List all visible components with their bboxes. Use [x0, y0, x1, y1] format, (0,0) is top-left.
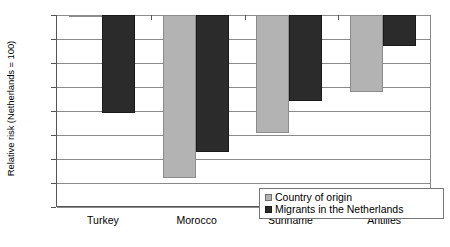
- gridline: [57, 135, 431, 136]
- bar-chart: Relative risk (Netherlands = 100) 100908…: [0, 0, 450, 247]
- bar-antilles-origin: [350, 15, 383, 92]
- plot-inner: [57, 15, 431, 206]
- y-tick-mark: [51, 63, 56, 64]
- bar-antilles-migrant: [383, 15, 416, 46]
- chart-legend: Country of origin Migrants in the Nether…: [259, 188, 444, 219]
- y-tick-mark: [51, 183, 56, 184]
- bar-morocco-migrant: [196, 15, 229, 152]
- x-minor-tick: [151, 15, 152, 20]
- legend-item-origin: Country of origin: [265, 191, 439, 203]
- legend-label-migrant: Migrants in the Netherlands: [275, 203, 403, 215]
- y-axis-title: Relative risk (Netherlands = 100): [5, 3, 16, 215]
- bar-suriname-migrant: [289, 15, 322, 101]
- legend-swatch-migrant-icon: [265, 206, 272, 213]
- plot-area: [56, 15, 431, 207]
- x-minor-tick: [338, 15, 339, 20]
- bar-turkey-origin: [69, 15, 102, 17]
- bar-morocco-origin: [163, 15, 196, 178]
- gridline: [57, 183, 431, 184]
- legend-swatch-origin-icon: [265, 194, 272, 201]
- y-tick-mark: [51, 87, 56, 88]
- y-tick-mark: [51, 135, 56, 136]
- x-label-morocco: Morocco: [150, 214, 244, 226]
- gridline: [57, 159, 431, 160]
- y-tick-mark: [51, 207, 56, 208]
- y-tick-mark: [51, 15, 56, 16]
- legend-item-migrant: Migrants in the Netherlands: [265, 203, 439, 215]
- y-tick-mark: [51, 159, 56, 160]
- x-label-turkey: Turkey: [56, 214, 150, 226]
- bar-turkey-migrant: [102, 15, 135, 113]
- legend-label-origin: Country of origin: [275, 191, 352, 203]
- x-minor-tick: [245, 15, 246, 20]
- y-tick-mark: [51, 39, 56, 40]
- y-tick-mark: [51, 111, 56, 112]
- bar-suriname-origin: [256, 15, 289, 133]
